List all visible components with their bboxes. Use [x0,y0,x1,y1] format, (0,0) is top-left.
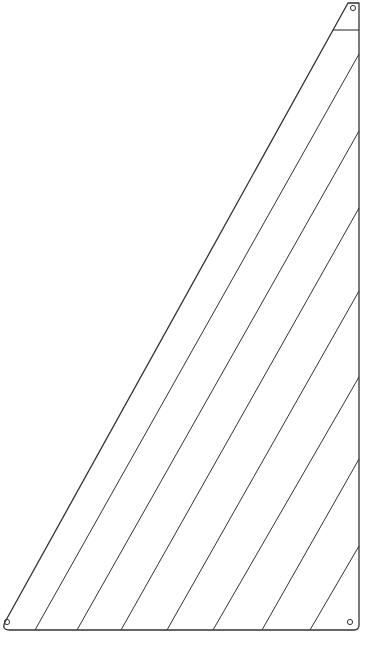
panel-seam-line [213,377,359,630]
panel-seam-line [262,459,359,630]
panel-seam-line [77,131,359,630]
panel-seam-line [310,546,359,630]
sail-drawing [0,0,365,645]
panel-seam-line [35,54,359,630]
sail-outline [4,3,359,630]
sail-diagram [0,0,365,645]
clew-grommet-icon [347,619,352,624]
panel-seam-line [121,208,359,630]
panel-seam-line [167,291,359,630]
head-grommet-icon [350,5,355,10]
